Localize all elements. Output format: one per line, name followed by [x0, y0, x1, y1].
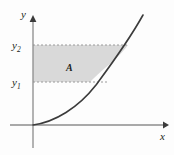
- tick-label-y2-subscript: 2: [17, 45, 21, 54]
- x-axis-label: x: [159, 130, 165, 142]
- arrow-up-icon: [30, 15, 37, 22]
- shaded-region-A: [33, 45, 128, 82]
- figure-canvas: y x y2 y1 A: [0, 0, 174, 155]
- y-axis-label: y: [20, 8, 26, 20]
- tick-label-y1: y1: [11, 76, 21, 91]
- graph-svg: y x y2 y1 A: [0, 0, 174, 155]
- tick-label-y2: y2: [11, 39, 21, 54]
- arrow-right-icon: [163, 122, 169, 129]
- tick-label-y1-subscript: 1: [17, 82, 21, 91]
- region-label-A: A: [65, 62, 73, 73]
